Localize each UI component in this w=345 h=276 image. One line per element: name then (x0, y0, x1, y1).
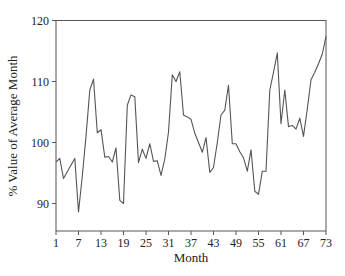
x-tick-label: 25 (140, 236, 152, 250)
y-tick-label: 90 (37, 197, 49, 211)
line-chart: 90100110120 171319253137434955616773 Mon… (0, 0, 345, 276)
x-tick-label: 43 (208, 236, 220, 250)
y-tick-label: 100 (31, 136, 49, 150)
x-tick-label: 19 (118, 236, 130, 250)
x-axis: 171319253137434955616773 (53, 231, 332, 250)
x-tick-label: 31 (163, 236, 175, 250)
x-tick-label: 37 (185, 236, 197, 250)
y-tick-label: 110 (31, 75, 49, 89)
x-axis-title: Month (174, 250, 209, 265)
x-tick-label: 67 (298, 236, 310, 250)
y-axis: 90100110120 (31, 14, 56, 211)
x-tick-label: 61 (275, 236, 287, 250)
x-tick-label: 1 (53, 236, 59, 250)
x-tick-label: 73 (320, 236, 332, 250)
y-axis-title: % Value of Average Month (5, 55, 20, 197)
data-line (56, 36, 326, 212)
x-tick-label: 7 (76, 236, 82, 250)
x-tick-label: 13 (95, 236, 107, 250)
x-tick-label: 55 (253, 236, 265, 250)
y-tick-label: 120 (31, 14, 49, 28)
x-tick-label: 49 (230, 236, 242, 250)
